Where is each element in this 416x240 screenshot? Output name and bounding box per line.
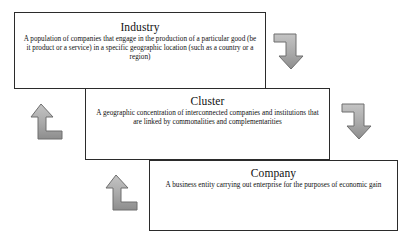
cluster-title: Cluster (86, 95, 329, 108)
bent-arrow-down-icon (340, 100, 378, 142)
cluster-description: A geographic concentration of interconne… (86, 109, 329, 127)
company-box[interactable]: Company A business entity carrying out e… (149, 160, 398, 231)
company-description: A business entity carrying out enterpris… (150, 181, 397, 190)
cluster-box[interactable]: Cluster A geographic concentration of in… (85, 88, 330, 160)
bent-arrow-up-icon (103, 172, 141, 214)
industry-box[interactable]: Industry A population of companies that … (14, 12, 266, 89)
industry-title: Industry (15, 21, 265, 34)
bent-arrow-down-icon (272, 30, 310, 72)
diagram-canvas: Industry A population of companies that … (0, 0, 416, 240)
bent-arrow-up-icon (28, 101, 66, 143)
company-title: Company (150, 167, 397, 180)
industry-description: A population of companies that engage in… (15, 35, 265, 63)
